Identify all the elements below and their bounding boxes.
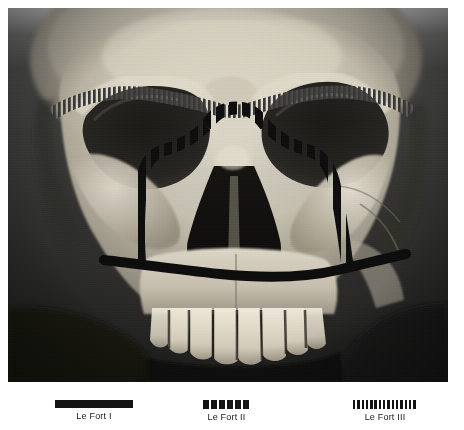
legend-label-le-fort-ii: Le Fort II (183, 412, 270, 422)
legend: Le Fort I Le Fort II Le Fort III (0, 392, 464, 430)
legend-item-le-fort-ii: Le Fort II (203, 400, 250, 422)
skull-photograph (8, 8, 448, 382)
solid-bar-swatch (55, 400, 133, 408)
legend-item-le-fort-i: Le Fort I (55, 400, 133, 421)
legend-item-le-fort-iii: Le Fort III (353, 400, 417, 422)
upper-teeth (134, 308, 344, 382)
le-fort-figure: Le Fort I Le Fort II Le Fort III (0, 0, 464, 430)
legend-label-le-fort-i: Le Fort I (55, 411, 133, 421)
coarse-dash-swatch (203, 400, 250, 409)
maxilla (140, 248, 337, 314)
legend-label-le-fort-iii: Le Fort III (337, 412, 433, 422)
skull-illustration (8, 8, 448, 382)
fine-hatch-swatch (353, 400, 417, 409)
